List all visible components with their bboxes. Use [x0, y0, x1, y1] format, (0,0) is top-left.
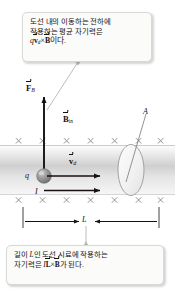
drift-velocity-symbol: v — [69, 157, 73, 166]
field-vector-subscript: in — [69, 118, 73, 124]
formula-field-vector: B — [45, 36, 50, 46]
length-dimension — [23, 207, 159, 228]
callout-bottom-line-2-pre: 자기력은 — [14, 260, 43, 269]
charge-label: q — [25, 172, 29, 180]
area-label: A — [143, 108, 148, 116]
drift-velocity-label: vd — [69, 157, 76, 167]
callout-top: 도선 내의 이동하는 전하에 작용하는 평균 자기력은 qvd×B이다. — [22, 12, 152, 62]
formula-velocity-vector: v — [34, 36, 38, 46]
callout-bottom-line-1: 길이 L인 도선 시료에 작용하는 — [14, 250, 157, 260]
callout-top-formula-tail: 이다. — [50, 36, 66, 45]
conducting-wire — [0, 145, 175, 195]
leader-line-top — [47, 61, 82, 111]
current-label: I — [35, 188, 38, 196]
force-vector-symbol: F — [26, 84, 31, 93]
callout-top-line-1: 도선 내의 이동하는 전하에 — [30, 17, 145, 27]
drift-velocity-subscript: d — [73, 160, 76, 166]
callout-bottom: 길이 L인 도선 시료에 작용하는 자기력은 IL×B가 된다. — [6, 245, 164, 285]
callout-bottom-line-2: 자기력은 IL×B가 된다. — [14, 260, 157, 270]
physics-figure: FB Bin vd q I A L 도선 내의 이동하는 전하에 작용하는 평균… — [0, 0, 175, 292]
callout-top-formula: qvd×B이다. — [30, 36, 145, 48]
formula-length-vector: L — [46, 260, 51, 270]
force-vector-label: FB — [26, 84, 35, 94]
formula-field-vector-bottom: B — [55, 260, 60, 270]
length-label: L — [82, 216, 86, 224]
field-mark-row-upper — [16, 138, 163, 143]
field-vector-label: Bin — [63, 115, 73, 124]
field-vector-symbol: B — [63, 115, 69, 124]
wire-cross-section-ellipse — [118, 145, 144, 196]
force-vector-subscript: B — [31, 87, 35, 93]
callout-bottom-line-2-post: 가 된다. — [60, 260, 84, 269]
callout-bottom-line-1-pre: 길이 — [14, 250, 30, 259]
field-mark-row-lower — [16, 198, 163, 203]
